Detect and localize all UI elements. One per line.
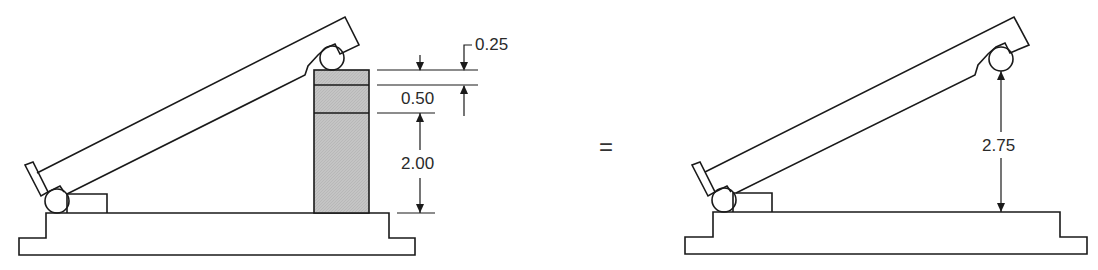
equals-sign: = [599, 135, 613, 159]
left-figure [19, 17, 478, 255]
pivot-block [733, 193, 772, 212]
gauge-block-stack [314, 70, 369, 213]
surface-plate [685, 212, 1087, 254]
lower-roller [45, 189, 69, 213]
pivot-block [67, 194, 107, 213]
upper-roller [989, 47, 1013, 71]
dimension-label-top-block: 0.25 [474, 36, 509, 53]
dimension-label-total-height: 2.75 [981, 137, 1016, 154]
dimension-lines [377, 45, 478, 213]
surface-plate [19, 213, 415, 255]
sine-bar-end-tab [692, 162, 715, 196]
sine-bar-end-tab [25, 162, 48, 196]
right-figure [685, 17, 1087, 254]
sine-bar [705, 17, 1029, 193]
upper-roller [320, 46, 344, 70]
dimension-label-bottom-block: 2.00 [400, 155, 435, 172]
dimension-label-middle-block: 0.50 [400, 90, 435, 107]
sine-bar-diagram [0, 0, 1098, 270]
sine-bar [37, 17, 359, 194]
